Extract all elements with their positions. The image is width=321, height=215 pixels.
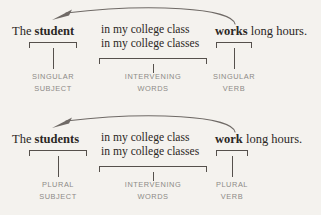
caption-subject: SINGULAR SUBJECT: [32, 71, 74, 95]
caption-verb-line-1: PLURAL: [216, 179, 248, 191]
caption-subject-line-2: SUBJECT: [39, 191, 77, 203]
caption-subject-line-1: SINGULAR: [32, 71, 74, 83]
subject-phrase: The student: [12, 23, 74, 40]
intervening-phrase: in my college class in my college classe…: [101, 22, 199, 52]
singular-agreement-example: The student in my college class in my co…: [0, 0, 321, 107]
subject-phrase: The students: [12, 131, 79, 148]
caption-intervening: INTERVENING WORDS: [125, 71, 181, 95]
caption-intervening: INTERVENING WORDS: [125, 179, 181, 203]
grammar-diagram-page: The student in my college class in my co…: [0, 0, 321, 215]
sentence-row: The students in my college class in my c…: [0, 130, 321, 164]
subject-emphasis: student: [35, 24, 75, 38]
verb-phrase: works long hours.: [215, 23, 307, 40]
caption-subject-line-1: PLURAL: [39, 179, 77, 191]
verb-suffix: long hours.: [248, 24, 307, 38]
verb-suffix: long hours.: [243, 132, 302, 146]
caption-verb: PLURAL VERB: [216, 179, 248, 203]
subject-prefix: The: [12, 132, 35, 146]
intervening-line-1: in my college class: [101, 131, 190, 144]
caption-verb-line-2: VERB: [216, 191, 248, 203]
verb-emphasis: works: [215, 24, 248, 38]
verb-emphasis: work: [215, 132, 243, 146]
sentence-row: The student in my college class in my co…: [0, 22, 321, 56]
verb-phrase: work long hours.: [215, 131, 302, 148]
caption-verb-line-2: VERB: [213, 83, 255, 95]
subject-stem: [58, 156, 59, 177]
caption-intervening-line-2: WORDS: [125, 191, 181, 203]
caption-subject-line-2: SUBJECT: [32, 83, 74, 95]
intervening-line-2: in my college classes: [101, 144, 199, 159]
caption-subject: PLURAL SUBJECT: [39, 179, 77, 203]
subject-emphasis: students: [35, 132, 79, 146]
caption-intervening-line-1: INTERVENING: [125, 71, 181, 83]
subject-prefix: The: [12, 24, 35, 38]
subject-stem: [53, 48, 54, 69]
caption-verb-line-1: SINGULAR: [213, 71, 255, 83]
verb-stem: [232, 156, 233, 177]
intervening-phrase: in my college class in my college classe…: [101, 130, 199, 160]
intervening-line-1: in my college class: [101, 23, 190, 36]
caption-intervening-line-1: INTERVENING: [125, 179, 181, 191]
plural-agreement-example: The students in my college class in my c…: [0, 108, 321, 215]
intervening-line-2: in my college classes: [101, 36, 199, 51]
verb-stem: [234, 48, 235, 69]
caption-verb: SINGULAR VERB: [213, 71, 255, 95]
caption-intervening-line-2: WORDS: [125, 83, 181, 95]
